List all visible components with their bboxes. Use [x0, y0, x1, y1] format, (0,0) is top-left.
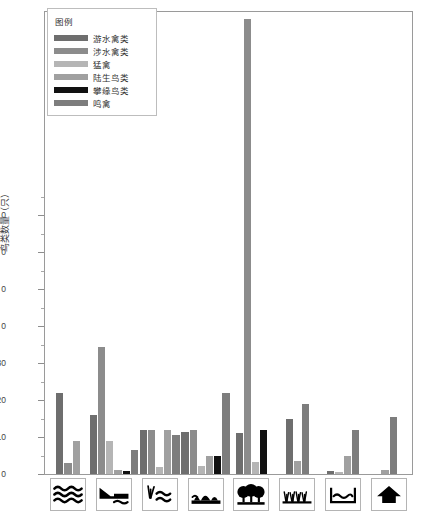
bar	[156, 467, 163, 474]
y-axis-tick-label: 10	[0, 432, 6, 442]
legend-rows: 游水禽类涉水禽类猛禽陆生鸟类攀缘鸟类鸣禽	[54, 31, 150, 109]
bar	[236, 433, 243, 474]
bar	[98, 347, 105, 475]
x-axis-category-5[interactable]	[233, 478, 269, 511]
bar	[327, 471, 334, 474]
bar	[252, 462, 259, 474]
x-axis-category-4[interactable]	[188, 478, 224, 511]
bar	[294, 461, 301, 474]
bar	[123, 471, 130, 474]
bar	[172, 435, 179, 474]
legend-swatch-icon	[54, 48, 88, 54]
bar	[244, 19, 251, 474]
pond-basin-icon	[326, 479, 360, 510]
legend-item-label: 攀缘鸟类	[93, 84, 129, 96]
bar	[381, 470, 388, 474]
bar	[302, 404, 309, 474]
y-axis-tick-label: 30	[0, 358, 6, 368]
bar	[90, 415, 97, 474]
legend-item[interactable]: 游水禽类	[54, 31, 150, 44]
legend-item[interactable]: 涉水禽类	[54, 44, 150, 57]
bar	[344, 456, 351, 474]
shoreline-slope-water-icon	[97, 479, 131, 510]
bar	[286, 419, 293, 474]
y-axis-tick-label: 0	[0, 284, 6, 294]
bar	[164, 430, 171, 474]
y-axis-title: 鸟类数量（只）	[0, 132, 11, 252]
x-axis-category-6[interactable]	[279, 478, 315, 511]
legend-swatch-icon	[54, 87, 88, 93]
bar	[73, 441, 80, 474]
bar	[260, 430, 267, 474]
bar	[390, 417, 397, 474]
building-house-icon	[372, 479, 406, 510]
x-axis-category-3[interactable]	[142, 478, 178, 511]
x-axis-category-2[interactable]	[96, 478, 132, 511]
bar-group	[229, 12, 275, 474]
bar	[352, 430, 359, 474]
bar	[181, 432, 188, 475]
y-axis-tick-label: 20	[0, 395, 6, 405]
bar	[190, 430, 197, 474]
bar	[140, 430, 147, 474]
legend-swatch-icon	[54, 74, 88, 80]
bar-group	[366, 12, 412, 474]
legend-item-label: 鸣禽	[93, 97, 111, 109]
bar-group	[274, 12, 320, 474]
x-axis-category-1[interactable]	[50, 478, 86, 511]
legend: 图例 游水禽类涉水禽类猛禽陆生鸟类攀缘鸟类鸣禽	[47, 8, 157, 116]
x-axis-category-7[interactable]	[325, 478, 361, 511]
bar	[106, 441, 113, 474]
legend-item[interactable]: 攀缘鸟类	[54, 83, 150, 96]
shrub-shoreline-icon	[189, 479, 223, 510]
open-water-waves-icon	[51, 479, 85, 510]
legend-item-label: 猛禽	[93, 58, 111, 70]
bar	[114, 470, 121, 474]
bar	[56, 393, 63, 474]
reed-marsh-water-icon	[143, 479, 177, 510]
legend-item[interactable]: 鸣禽	[54, 96, 150, 109]
bar-group	[320, 12, 366, 474]
legend-swatch-icon	[54, 61, 88, 67]
y-axis-tick-label: 0	[0, 247, 6, 257]
y-axis-tick-label: 0	[0, 210, 6, 220]
grassland-icon	[280, 479, 314, 510]
bar-group	[183, 12, 229, 474]
y-axis-tick-label: 0	[0, 321, 6, 331]
x-axis-icon-row	[45, 478, 412, 514]
chart-root: 鸟类数量（只） 01020300000 图例 游水禽类涉水禽类猛禽陆生鸟类攀缘鸟…	[0, 0, 423, 521]
legend-item[interactable]: 猛禽	[54, 57, 150, 70]
bar	[335, 472, 342, 474]
legend-item-label: 涉水禽类	[93, 45, 129, 57]
legend-title: 图例	[55, 15, 150, 27]
bar	[64, 463, 71, 474]
legend-item[interactable]: 陆生鸟类	[54, 70, 150, 83]
legend-item-label: 陆生鸟类	[93, 71, 129, 83]
legend-swatch-icon	[54, 35, 88, 41]
bar	[206, 456, 213, 474]
legend-item-label: 游水禽类	[93, 32, 129, 44]
y-axis-tick-label: 0	[0, 469, 6, 479]
bar	[148, 430, 155, 474]
bar	[214, 456, 221, 474]
bar	[198, 466, 205, 474]
legend-swatch-icon	[54, 100, 88, 106]
x-axis-category-8[interactable]	[371, 478, 407, 511]
woodland-trees-icon	[234, 479, 268, 510]
